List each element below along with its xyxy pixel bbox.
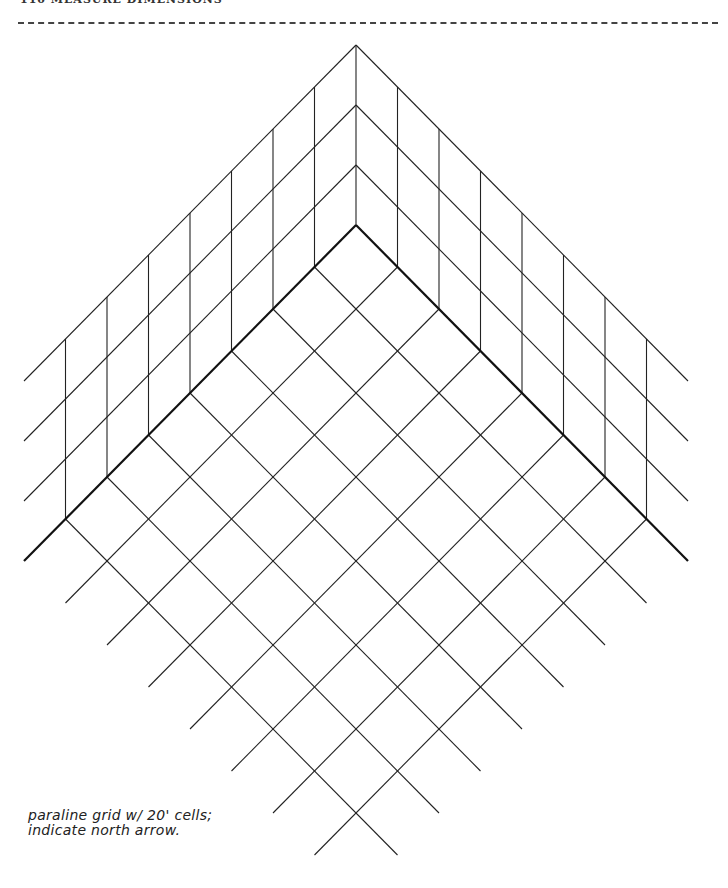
handwritten-note: paraline grid w/ 20' cells; indicate nor… — [28, 808, 212, 838]
paraline-grid-drawing — [0, 0, 728, 888]
note-line-2: indicate north arrow. — [28, 823, 212, 838]
note-line-1: paraline grid w/ 20' cells; — [28, 808, 212, 823]
floor-grid — [66, 267, 647, 855]
wall-grid — [24, 45, 688, 519]
